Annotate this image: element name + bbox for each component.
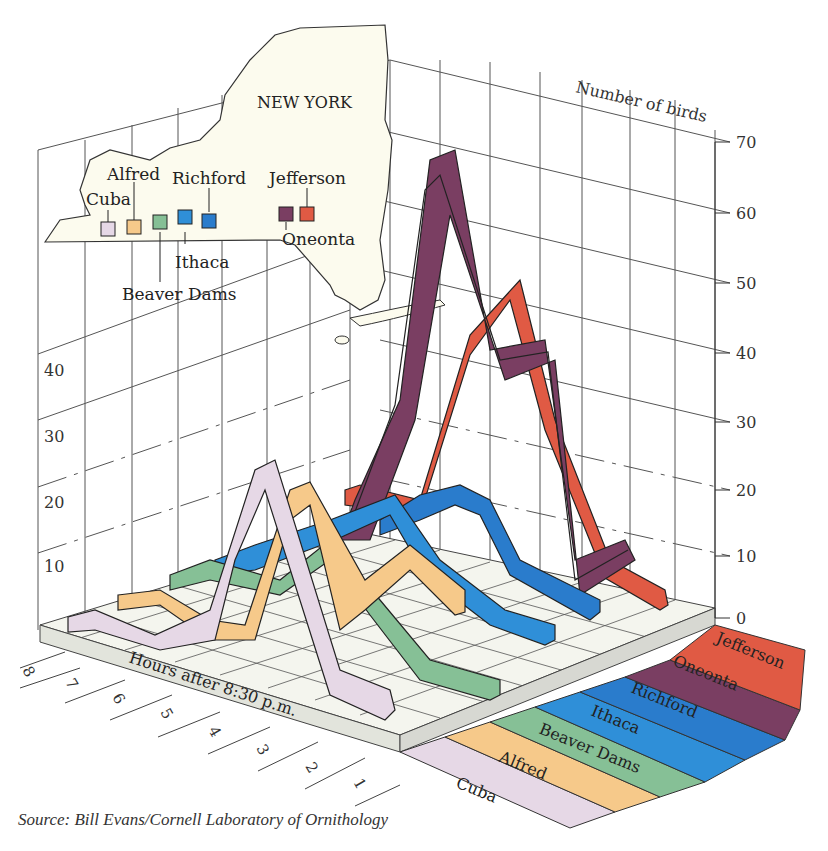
x-tick-6: 6 [109, 690, 129, 707]
map-title: NEW YORK [257, 93, 353, 112]
right-y-ticks: 70 60 50 40 30 20 10 0 [736, 133, 756, 628]
left-tick-30: 30 [44, 427, 64, 446]
left-tick-40: 40 [44, 361, 64, 380]
x-tick-5: 5 [157, 705, 177, 722]
x-tick-2: 2 [302, 759, 322, 776]
left-tick-20: 20 [44, 493, 64, 512]
map-label-richford: Richford [172, 168, 246, 188]
x-tick-7: 7 [62, 675, 82, 692]
right-y-axis [715, 142, 730, 618]
x-tick-1: 1 [350, 775, 370, 792]
map-label-jefferson: Jefferson [267, 168, 346, 188]
map-label-cuba: Cuba [86, 189, 131, 209]
y-tick-50: 50 [736, 274, 756, 293]
y-tick-40: 40 [736, 344, 756, 363]
y-tick-20: 20 [736, 481, 756, 500]
left-y-ticks: 40 30 20 10 [44, 361, 64, 576]
map-label-alfred: Alfred [106, 164, 160, 184]
source-caption: Source: Bill Evans/Cornell Laboratory of… [18, 810, 388, 830]
left-tick-10: 10 [44, 557, 64, 576]
y-axis-title: Number of birds [574, 77, 709, 126]
y-tick-10: 10 [736, 547, 756, 566]
map-label-ithaca: Ithaca [175, 252, 229, 272]
map-label-beaver-dams: Beaver Dams [122, 284, 237, 304]
y-tick-70: 70 [736, 133, 756, 152]
map-label-oneonta: Oneonta [282, 229, 355, 249]
chart-svg: NEW YORK Cuba Alfred Beaver Dams Ithaca … [0, 0, 828, 851]
x-tick-3: 3 [253, 741, 273, 758]
y-tick-30: 30 [736, 413, 756, 432]
x-tick-8: 8 [19, 663, 39, 680]
y-tick-60: 60 [736, 204, 756, 223]
y-tick-0: 0 [736, 609, 746, 628]
x-tick-4: 4 [205, 723, 225, 740]
chart-figure: NEW YORK Cuba Alfred Beaver Dams Ithaca … [0, 0, 828, 851]
